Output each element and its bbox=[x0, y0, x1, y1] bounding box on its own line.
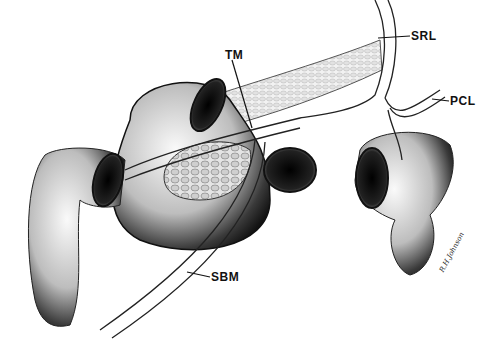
right-colon-lumen bbox=[356, 148, 388, 208]
illustration-canvas: TM SRL PCL SBM R.H.Johnson bbox=[0, 0, 492, 361]
srl-leader bbox=[378, 36, 410, 38]
jejunum-lumen bbox=[264, 148, 316, 192]
label-pcl: PCL bbox=[450, 94, 476, 108]
ligament-pcl bbox=[385, 90, 440, 110]
label-tm: TM bbox=[225, 48, 243, 62]
label-sbm: SBM bbox=[211, 270, 239, 284]
label-srl: SRL bbox=[411, 29, 437, 43]
anatomy-drawing bbox=[0, 0, 492, 361]
